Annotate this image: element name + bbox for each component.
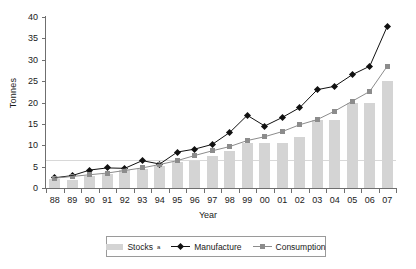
manufacture-point bbox=[226, 129, 233, 136]
manufacture-point bbox=[209, 141, 216, 148]
y-tick-label: 20 bbox=[14, 99, 38, 108]
bar bbox=[84, 176, 95, 188]
y-tick-label: 25 bbox=[14, 77, 38, 86]
legend-label-consumption: Consumption bbox=[276, 242, 326, 252]
consumption-point bbox=[192, 153, 197, 158]
consumption-point bbox=[332, 109, 337, 114]
consumption-point bbox=[157, 162, 162, 167]
manufacture-point bbox=[261, 122, 268, 129]
consumption-point bbox=[385, 64, 390, 69]
consumption-point bbox=[297, 122, 302, 127]
manufacture-point bbox=[296, 104, 303, 111]
plot-area bbox=[46, 17, 396, 188]
x-tick bbox=[396, 189, 397, 193]
x-axis-title: Year bbox=[0, 210, 416, 220]
x-tick bbox=[151, 189, 152, 193]
consumption-point bbox=[87, 172, 92, 177]
y-tick-label: 0 bbox=[14, 184, 38, 193]
x-tick bbox=[116, 189, 117, 193]
consumption-point bbox=[122, 168, 127, 173]
legend-label-stocks: Stocks bbox=[127, 242, 153, 252]
bar bbox=[67, 180, 78, 188]
consumption-point bbox=[245, 138, 250, 143]
chart-legend: Stocksa Manufacture Consumption bbox=[106, 236, 326, 257]
bar bbox=[102, 174, 113, 188]
chart-container: Tonnes 0510152025303540 8889909192939495… bbox=[0, 0, 416, 269]
y-tick-label: 15 bbox=[14, 120, 38, 129]
bar bbox=[224, 151, 235, 188]
x-tick bbox=[186, 189, 187, 193]
consumption-point bbox=[227, 144, 232, 149]
manufacture-swatch-icon bbox=[171, 243, 190, 250]
legend-sup-stocks: a bbox=[157, 244, 160, 250]
x-tick bbox=[81, 189, 82, 193]
x-tick bbox=[256, 189, 257, 193]
x-tick bbox=[239, 189, 240, 193]
consumption-point bbox=[52, 176, 57, 181]
manufacture-point bbox=[384, 23, 391, 30]
consumption-point bbox=[105, 171, 110, 176]
manufacture-point bbox=[331, 83, 338, 90]
bar bbox=[172, 162, 183, 188]
x-tick bbox=[64, 189, 65, 193]
bar bbox=[119, 170, 130, 188]
bar bbox=[294, 137, 305, 188]
x-tick bbox=[326, 189, 327, 193]
bar bbox=[277, 143, 288, 188]
consumption-point bbox=[175, 158, 180, 163]
x-tick bbox=[274, 189, 275, 193]
manufacture-point bbox=[314, 86, 321, 93]
manufacture-point bbox=[279, 114, 286, 121]
manufacture-point bbox=[191, 146, 198, 153]
bar bbox=[207, 156, 218, 188]
consumption-point bbox=[70, 174, 75, 179]
y-tick-label: 35 bbox=[14, 34, 38, 43]
x-tick bbox=[46, 189, 47, 193]
manufacture-point bbox=[174, 149, 181, 156]
consumption-point bbox=[315, 117, 320, 122]
bar bbox=[364, 103, 375, 189]
stocks-swatch-icon bbox=[106, 244, 123, 250]
consumption-swatch-icon bbox=[253, 243, 272, 250]
manufacture-point bbox=[366, 63, 373, 70]
manufacture-point bbox=[139, 157, 146, 164]
manufacture-point bbox=[244, 112, 251, 119]
x-tick bbox=[291, 189, 292, 193]
bar bbox=[312, 120, 323, 188]
x-tick bbox=[221, 189, 222, 193]
consumption-point bbox=[367, 89, 372, 94]
bar bbox=[382, 81, 393, 188]
x-tick bbox=[344, 189, 345, 193]
manufacture-point bbox=[349, 71, 356, 78]
legend-item-stocks: Stocksa bbox=[106, 242, 160, 252]
bar bbox=[137, 169, 148, 188]
x-tick bbox=[361, 189, 362, 193]
bar bbox=[329, 120, 340, 188]
x-tick bbox=[309, 189, 310, 193]
consumption-point bbox=[210, 148, 215, 153]
consumption-point bbox=[140, 165, 145, 170]
x-tick bbox=[99, 189, 100, 193]
y-tick-label: 10 bbox=[14, 141, 38, 150]
x-tick bbox=[134, 189, 135, 193]
legend-item-consumption: Consumption bbox=[253, 242, 326, 252]
y-tick-label: 40 bbox=[14, 13, 38, 22]
x-tick bbox=[204, 189, 205, 193]
y-axis-title: Tonnes bbox=[8, 58, 18, 128]
x-tick-label: 07 bbox=[377, 196, 397, 205]
bar bbox=[242, 143, 253, 188]
consumption-point bbox=[262, 134, 267, 139]
bar bbox=[259, 143, 270, 188]
bar bbox=[154, 166, 165, 188]
consumption-point bbox=[280, 129, 285, 134]
bar bbox=[189, 161, 200, 188]
x-tick bbox=[169, 189, 170, 193]
y-tick-label: 30 bbox=[14, 56, 38, 65]
legend-item-manufacture: Manufacture bbox=[171, 242, 241, 252]
y-tick-label: 5 bbox=[14, 163, 38, 172]
x-tick bbox=[379, 189, 380, 193]
consumption-point bbox=[350, 99, 355, 104]
bar bbox=[347, 103, 358, 188]
legend-label-manufacture: Manufacture bbox=[194, 242, 241, 252]
